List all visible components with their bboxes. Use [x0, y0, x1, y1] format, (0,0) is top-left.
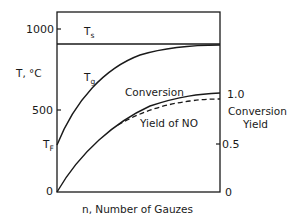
- tick-label-0-5: 0.5: [222, 139, 240, 150]
- y-axis-right-label-1: Conversion: [228, 106, 287, 117]
- ts-sub: s: [90, 31, 94, 40]
- tick-label-1000: 1000: [26, 24, 54, 35]
- y-axis-right-label-2: Yield: [243, 119, 268, 130]
- plot-frame: [57, 12, 220, 192]
- tg-label: Tg: [84, 72, 95, 83]
- tf-sub: F: [49, 144, 53, 153]
- tick-label-1-0: 1.0: [227, 89, 245, 100]
- tf-label: TF: [43, 139, 54, 150]
- conversion-label: Conversion: [125, 87, 184, 98]
- tick-label-0-right: 0: [225, 187, 232, 198]
- series-conversion: [57, 93, 220, 192]
- tick-label-0-left: 0: [46, 186, 53, 197]
- tick-label-500: 500: [32, 105, 53, 116]
- yield-no-label: Yield of NO: [140, 118, 198, 129]
- ts-label: Ts: [84, 26, 94, 37]
- x-axis-label: n, Number of Gauzes: [82, 204, 193, 215]
- y-axis-left-label: T, °C: [16, 68, 42, 79]
- tg-sub: g: [90, 77, 95, 86]
